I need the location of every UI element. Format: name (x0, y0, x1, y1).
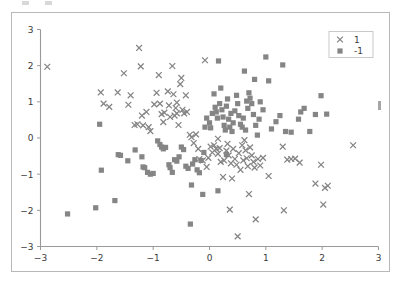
data-point-square (258, 99, 263, 104)
data-point-cross (136, 45, 142, 51)
data-point-cross (144, 109, 150, 115)
data-point-square (225, 96, 230, 101)
data-point-square (151, 171, 156, 176)
data-point-square (266, 78, 271, 83)
data-point-cross (44, 64, 50, 70)
y-tick-label: 3 (28, 25, 34, 35)
data-point-square (170, 170, 175, 175)
data-point-cross (215, 151, 221, 157)
data-point-square (253, 123, 258, 128)
data-point-cross (165, 88, 171, 94)
data-point-cross (183, 92, 189, 98)
data-point-cross (98, 90, 104, 96)
legend: 1-1 (329, 32, 373, 58)
data-point-square (189, 182, 194, 187)
data-point-cross (318, 162, 324, 168)
data-point-square (249, 101, 254, 106)
data-point-cross (178, 75, 184, 81)
data-point-square (125, 158, 130, 163)
data-point-cross (202, 57, 208, 63)
data-point-square (214, 109, 219, 114)
data-point-square (260, 107, 265, 112)
data-point-square (252, 77, 257, 82)
data-point-cross (191, 140, 197, 146)
y-tick-label: −2 (20, 206, 33, 216)
data-point-square (93, 205, 98, 210)
data-point-square (246, 90, 251, 95)
data-point-square (211, 91, 216, 96)
data-point-square (218, 85, 223, 90)
data-point-cross (154, 90, 160, 96)
data-point-square (118, 153, 123, 158)
legend-entry-label: 1 (354, 35, 360, 45)
data-point-cross (106, 104, 112, 110)
data-point-square (280, 62, 285, 67)
data-point-cross (166, 103, 172, 109)
data-point-cross (177, 81, 183, 87)
data-point-cross (101, 101, 107, 107)
data-point-square (251, 112, 256, 117)
data-point-square (232, 108, 237, 113)
data-point-cross (280, 144, 286, 150)
data-point-square (202, 125, 207, 130)
scatter-plot-figure: −3−2−10123 −3−2−10123 1-1 (0, 0, 405, 287)
series-minus-one-squares (65, 54, 329, 226)
data-point-square (185, 166, 190, 171)
data-point-square (269, 126, 274, 131)
data-point-square (263, 54, 268, 59)
data-point-cross (115, 90, 121, 96)
data-point-cross (232, 156, 238, 162)
data-point-cross (138, 63, 144, 69)
y-tick-label: 1 (28, 97, 34, 107)
data-point-square (181, 147, 186, 152)
data-point-square (201, 150, 206, 155)
data-point-square (220, 114, 225, 119)
data-point-cross (125, 102, 131, 108)
plot-canvas: −3−2−10123 −3−2−10123 1-1 (0, 0, 405, 287)
data-point-square (217, 101, 222, 106)
x-tick-label: 3 (376, 253, 382, 263)
data-point-square (235, 101, 240, 106)
data-point-square (213, 105, 218, 110)
data-point-square (99, 168, 104, 173)
data-point-cross (139, 113, 145, 119)
data-point-cross (156, 72, 162, 78)
data-point-cross (266, 173, 272, 179)
data-point-square (302, 106, 307, 111)
data-point-square (142, 165, 147, 170)
data-point-cross (195, 146, 201, 152)
series-one-crosses (44, 45, 356, 239)
data-point-square (236, 113, 241, 118)
legend-entry-label: -1 (354, 46, 363, 56)
x-axis-tick-labels: −3−2−10123 (34, 253, 382, 263)
data-point-square (245, 106, 250, 111)
data-point-cross (174, 100, 180, 106)
data-point-cross (230, 146, 236, 152)
data-point-square (226, 117, 231, 122)
x-tick-label: 0 (207, 253, 213, 263)
data-point-square (324, 112, 329, 117)
data-point-square (223, 127, 228, 132)
data-point-square (224, 104, 229, 109)
data-point-cross (313, 181, 319, 187)
data-point-square (222, 123, 227, 128)
data-point-square (208, 125, 213, 130)
data-point-square (200, 192, 205, 197)
data-point-cross (169, 63, 175, 69)
data-point-cross (249, 152, 255, 158)
legend-box (329, 32, 373, 58)
data-point-cross (238, 167, 244, 173)
data-point-cross (281, 207, 287, 213)
y-tick-label: −1 (20, 170, 33, 180)
data-point-square (65, 211, 70, 216)
data-point-cross (172, 113, 178, 119)
data-point-cross (151, 101, 157, 107)
data-point-square (273, 119, 278, 124)
data-point-square (207, 120, 212, 125)
y-axis-tick-labels: −3−2−10123 (20, 25, 34, 252)
data-point-cross (320, 202, 326, 208)
data-point-square (163, 145, 168, 150)
data-point-cross (235, 233, 241, 239)
y-tick-label: 2 (28, 61, 34, 71)
data-point-cross (220, 174, 226, 180)
